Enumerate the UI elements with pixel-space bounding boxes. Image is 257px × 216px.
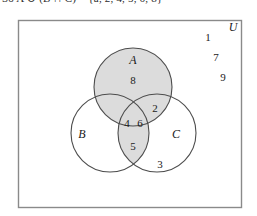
outside-value-9: 9: [220, 71, 226, 83]
caption-strip: So A ∪ (B ∩ C) = {a, 2, 4, 5, 6, 8}: [0, 0, 257, 8]
caption-text: So A ∪ (B ∩ C) = {a, 2, 4, 5, 6, 8}: [2, 0, 162, 5]
region-value-a-and-c: 2: [152, 102, 158, 114]
venn-diagram-figure: A B C 8 2 4 6 5 3 1 7 9 U: [0, 8, 257, 216]
set-label-c: C: [172, 127, 181, 141]
universe-label: U: [229, 20, 239, 34]
region-value-a-and-b: 4: [124, 117, 130, 129]
venn-diagram-svg: A B C 8 2 4 6 5 3 1 7 9 U: [0, 8, 257, 216]
set-label-a: A: [128, 53, 137, 67]
region-value-c-only: 3: [157, 158, 163, 170]
region-value-b-and-c: 5: [130, 140, 136, 152]
region-value-a-b-c: 6: [137, 117, 143, 129]
region-value-a-only: 8: [130, 74, 136, 86]
set-label-b: B: [78, 127, 86, 141]
outside-value-7: 7: [213, 51, 219, 63]
outside-value-1: 1: [205, 31, 211, 43]
